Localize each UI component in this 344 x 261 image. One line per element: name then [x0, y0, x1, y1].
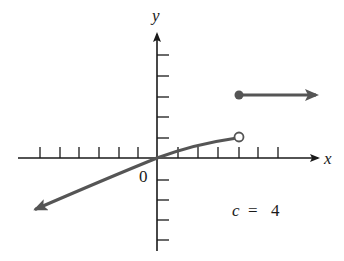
- open-circle-endpoint: [235, 133, 244, 142]
- curve-piece-left: [36, 139, 234, 210]
- x-axis-label: x: [323, 149, 332, 168]
- origin-label: 0: [139, 167, 148, 186]
- annotation-value: 4: [271, 201, 280, 220]
- y-axis-ticks: [157, 55, 169, 240]
- graph-canvas: y x 0 c = 4: [0, 0, 344, 261]
- closed-dot-endpoint: [235, 91, 244, 100]
- annotation-var: c: [232, 201, 240, 220]
- y-axis-label: y: [150, 6, 160, 25]
- annotation-c-equals-4: c = 4: [232, 201, 280, 220]
- annotation-eq: =: [248, 201, 258, 220]
